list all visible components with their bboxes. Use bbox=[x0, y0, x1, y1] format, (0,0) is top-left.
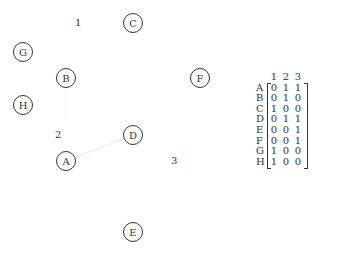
matrix-row: H100 bbox=[256, 157, 304, 168]
hyperedge-label: 2 bbox=[55, 129, 61, 140]
node-h: H bbox=[13, 95, 33, 115]
hyperedge-label: 1 bbox=[75, 17, 81, 28]
node-g: G bbox=[13, 42, 33, 62]
node-d: D bbox=[123, 125, 143, 145]
matrix-row: E001 bbox=[256, 125, 304, 136]
node-a: A bbox=[56, 151, 76, 171]
matrix-header-row: 1 2 3 bbox=[256, 72, 304, 83]
left-bracket bbox=[267, 83, 271, 169]
node-c: C bbox=[123, 13, 143, 33]
node-e: E bbox=[123, 222, 143, 242]
matrix-cell: 1 bbox=[292, 125, 304, 136]
matrix-cell: 0 bbox=[292, 157, 304, 168]
incidence-matrix: 1 2 3 A011B010C100D011E001F001G100H100 bbox=[256, 72, 304, 167]
matrix-cell: 0 bbox=[280, 157, 292, 168]
column-header: 2 bbox=[280, 72, 292, 83]
node-b: B bbox=[56, 68, 76, 88]
hyperedge-label: 3 bbox=[171, 155, 177, 166]
node-f: F bbox=[190, 68, 210, 88]
right-bracket bbox=[304, 83, 308, 169]
column-header: 1 bbox=[268, 72, 280, 83]
matrix-cell: 0 bbox=[280, 125, 292, 136]
column-header: 3 bbox=[292, 72, 304, 83]
